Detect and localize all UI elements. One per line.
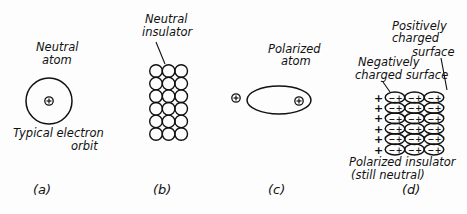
neg-leader-line (383, 82, 390, 92)
atom-circle (162, 128, 175, 141)
dipole-atom: −+ (424, 103, 444, 114)
panel-b-title-line1: Neutral (145, 12, 188, 26)
dipole-atom: −+ (405, 113, 425, 124)
negative-charge-icon: − (408, 94, 415, 103)
positive-charge-icon: + (435, 115, 442, 124)
negative-charge-icon: − (428, 104, 435, 113)
dipole-atom: −+ (405, 123, 425, 134)
negative-charge-icon: − (389, 94, 396, 103)
atom-circle (175, 115, 188, 128)
negative-charge-icon: − (428, 94, 435, 103)
negative-charge-icon: − (389, 135, 396, 144)
positive-charge-icon: + (415, 146, 422, 155)
polarized-orbit-ellipse (247, 86, 311, 114)
positive-charge-icon: + (415, 135, 422, 144)
positive-charge-icon: + (396, 94, 403, 103)
positive-charge-icon: + (396, 146, 403, 155)
dipole-atom: −+ (405, 92, 425, 103)
atom-circle (162, 77, 175, 90)
atom-circle (150, 65, 163, 78)
negative-charge-icon: − (389, 115, 396, 124)
dipole-atom: −+ (405, 134, 425, 145)
negative-charge-icon: − (408, 135, 415, 144)
panel-b: Neutral insulator (b) (142, 12, 194, 197)
dipole-atom: −+ (405, 103, 425, 114)
atom-circle (175, 128, 188, 141)
negative-charge-icon: − (389, 146, 396, 155)
panel-a-title-line1: Neutral (36, 40, 79, 54)
panel-a-note-line1: Typical electron (13, 126, 104, 140)
neutral-atom-grid (150, 65, 188, 141)
atom-circle (150, 115, 163, 128)
negative-charge-icon: − (389, 104, 396, 113)
negative-charge-icon: − (389, 125, 396, 134)
panel-c-caption: (c) (268, 182, 285, 197)
atom-circle (162, 115, 175, 128)
positive-charge-icon: + (415, 104, 422, 113)
dipole-atom: −+ (405, 144, 425, 155)
negative-charge-icon: − (408, 104, 415, 113)
atom-circle (175, 90, 188, 103)
panel-a: Neutral atom Typical electron orbit (a) (13, 40, 104, 197)
dipole-atom: −+ (424, 123, 444, 134)
positive-charge-icon: + (435, 104, 442, 113)
atom-circle (150, 128, 163, 141)
panel-b-caption: (b) (153, 182, 171, 197)
positive-charge-icon: + (435, 146, 442, 155)
negative-charge-icon: − (428, 125, 435, 134)
panel-d-caption: (d) (402, 182, 420, 197)
external-positive-charges: ++++++ (374, 92, 383, 157)
polarization-diagram: Neutral atom Typical electron orbit (a) … (0, 0, 467, 214)
panel-b-title-line2: insulator (142, 25, 194, 39)
dipole-atom: −+ (385, 92, 405, 103)
positive-charge-icon: + (396, 115, 403, 124)
panel-d: Positively charged surface Negatively ch… (349, 19, 457, 197)
atom-circle (162, 103, 175, 116)
panel-c: Polarized atom (c) (232, 42, 321, 197)
panel-a-title-line2: atom (42, 53, 72, 67)
leader-line (156, 42, 165, 64)
negative-charge-icon: − (408, 146, 415, 155)
positive-charge-icon: + (415, 94, 422, 103)
negative-charge-icon: − (428, 135, 435, 144)
dipole-atom: −+ (385, 103, 405, 114)
positive-charge-icon: + (396, 135, 403, 144)
panel-a-note-line2: orbit (71, 139, 98, 153)
nucleus-icon (295, 97, 303, 105)
dipole-atom: −+ (385, 113, 405, 124)
panel-d-bottom-line1: Polarized insulator (349, 155, 457, 169)
panel-d-pos-label-line2: charged (392, 31, 440, 45)
positive-charge-icon: + (396, 104, 403, 113)
atom-circle (150, 90, 163, 103)
positive-charge-icon: + (435, 94, 442, 103)
positive-charge-icon: + (435, 135, 442, 144)
atom-circle (175, 65, 188, 78)
atom-circle (162, 65, 175, 78)
positive-charge-icon: + (396, 125, 403, 134)
atom-circle (162, 90, 175, 103)
nucleus-icon (45, 97, 53, 105)
atom-circle (150, 77, 163, 90)
positive-charge-icon: + (435, 125, 442, 134)
panel-d-bottom-line2: (still neutral) (351, 168, 425, 182)
dipole-atom: −+ (424, 144, 444, 155)
external-positive-charge-icon (232, 94, 240, 102)
negative-charge-icon: − (408, 125, 415, 134)
negative-charge-icon: − (428, 146, 435, 155)
dipole-atom: −+ (424, 113, 444, 124)
positive-charge-icon: + (415, 115, 422, 124)
atom-circle (175, 103, 188, 116)
dipole-atom: −+ (424, 92, 444, 103)
panel-d-neg-label-line1: Negatively (358, 55, 420, 69)
panel-c-title-line2: atom (281, 54, 311, 68)
atom-circle (175, 77, 188, 90)
panel-a-caption: (a) (33, 182, 51, 197)
atom-circle (150, 103, 163, 116)
polarized-atom-grid: −+−+−+−+−+−+−+−+−+−+−+−+−+−+−+−+−+−+ (385, 92, 444, 155)
dipole-atom: −+ (385, 134, 405, 145)
dipole-atom: −+ (385, 144, 405, 155)
positive-charge-icon: + (415, 125, 422, 134)
panel-d-neg-label-line2: charged surface (355, 68, 448, 82)
negative-charge-icon: − (408, 115, 415, 124)
dipole-atom: −+ (424, 134, 444, 145)
